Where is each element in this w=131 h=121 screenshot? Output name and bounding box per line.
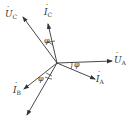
angle-phi-label: φ (44, 37, 50, 45)
phasor-label-UC: U·C (5, 10, 17, 20)
phasor-label-IA: I·A (96, 75, 104, 85)
phasor-diagram-canvas (0, 0, 131, 121)
phasor-label-UA: U·A (114, 56, 126, 66)
angle-phi-label: φ (38, 75, 44, 83)
phasor-UB (27, 63, 57, 115)
angle-arc-a (71, 62, 72, 69)
phasor-UA (57, 61, 112, 63)
phasor-label-IB: I·B (13, 86, 21, 96)
angle-phi-label: φ (74, 61, 80, 69)
phasor-label-IC: I·C (44, 8, 52, 18)
